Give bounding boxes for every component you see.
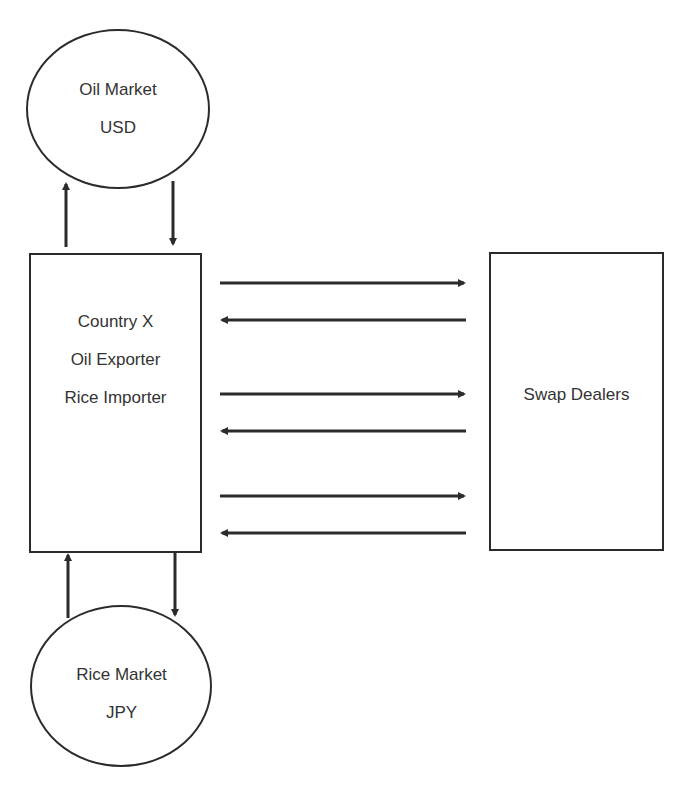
rice-market-title: Rice Market [31, 656, 212, 694]
country-role-importer: Rice Importer [30, 379, 201, 417]
country-label: Country X Oil Exporter Rice Importer [30, 303, 201, 417]
rice-market-currency: JPY [31, 694, 212, 732]
swap-dealers-label: Swap Dealers [490, 376, 663, 414]
country-role-exporter: Oil Exporter [30, 341, 201, 379]
oil-market-label: Oil Market USD [27, 71, 209, 147]
oil-market-currency: USD [27, 109, 209, 147]
oil-market-title: Oil Market [27, 71, 209, 109]
rice-market-label: Rice Market JPY [31, 656, 212, 732]
country-title: Country X [30, 303, 201, 341]
swap-dealers-title: Swap Dealers [490, 376, 663, 414]
